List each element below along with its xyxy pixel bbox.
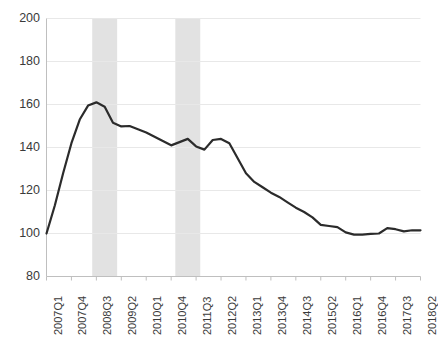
x-tick-label-2009Q2: 2009Q2 [126, 295, 138, 334]
x-tick-label-2008Q3: 2008Q3 [101, 295, 113, 334]
y-tick-label-100: 100 [6, 226, 40, 240]
x-tick-label-2007Q4: 2007Q4 [76, 295, 88, 334]
x-tick-label-2015Q2: 2015Q2 [326, 295, 338, 334]
x-tick-label-2012Q2: 2012Q2 [226, 295, 238, 334]
x-tick-label-2018Q2: 2018Q2 [426, 295, 438, 334]
x-tick-label-2017Q3: 2017Q3 [401, 295, 413, 334]
x-tick-label-2016Q1: 2016Q1 [351, 295, 363, 334]
x-tick-label-2007Q1: 2007Q1 [52, 295, 64, 334]
x-tick-label-2013Q4: 2013Q4 [276, 295, 288, 334]
y-tick-label-80: 80 [6, 269, 40, 283]
x-tick-label-2010Q4: 2010Q4 [176, 295, 188, 334]
y-tick-label-200: 200 [6, 11, 40, 25]
x-tick-label-2014Q3: 2014Q3 [301, 295, 313, 334]
x-tick-label-2016Q4: 2016Q4 [376, 295, 388, 334]
y-tick-label-160: 160 [6, 97, 40, 111]
x-tick-label-2011Q3: 2011Q3 [201, 296, 213, 334]
y-tick-label-120: 120 [6, 183, 40, 197]
x-tick-label-2013Q1: 2013Q1 [251, 295, 263, 334]
y-tick-label-180: 180 [6, 54, 40, 68]
y-tick-label-140: 140 [6, 140, 40, 154]
x-tick-label-2010Q1: 2010Q1 [151, 295, 163, 334]
